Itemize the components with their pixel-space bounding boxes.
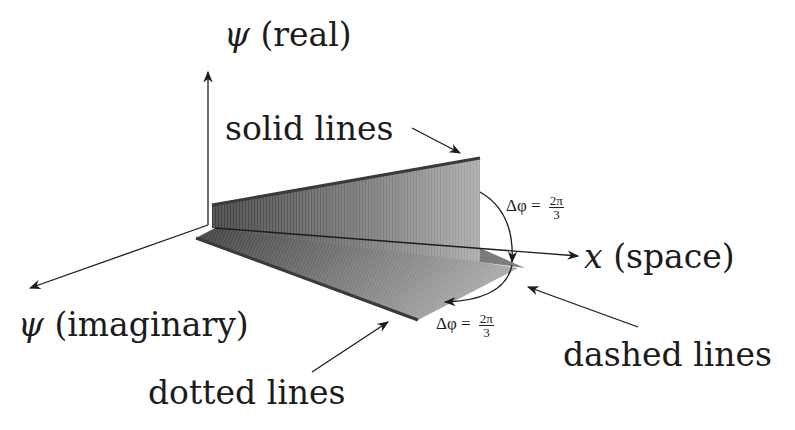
phase-label-lower: Δφ = 2π 3 <box>436 312 494 339</box>
axis-imaginary <box>30 225 208 288</box>
axis-space-text: (space) <box>613 237 735 276</box>
dotted-lines-pointer <box>312 322 388 372</box>
phase-prefix: Δφ = <box>506 196 541 215</box>
axis-label-real: ψ (real) <box>224 18 352 51</box>
annotation-dotted-lines: dotted lines <box>148 376 345 409</box>
dashed-lines-pointer <box>528 287 638 327</box>
annotation-solid-lines: solid lines <box>225 112 393 145</box>
solid-lines-pointer <box>412 128 460 153</box>
psi-symbol: ψ <box>224 15 250 54</box>
phase-label-upper: Δφ = 2π 3 <box>506 194 564 221</box>
axis-imaginary-text: (imaginary) <box>54 305 248 344</box>
axis-real-text: (real) <box>260 15 351 54</box>
x-symbol: x <box>584 237 603 276</box>
fraction-numerator: 2π <box>549 194 564 208</box>
fraction-numerator: 2π <box>479 312 494 326</box>
axis-label-imaginary: ψ (imaginary) <box>18 308 249 341</box>
fraction-denominator: 3 <box>479 326 494 339</box>
phase-fraction: 2π 3 <box>479 312 494 339</box>
annotation-dashed-lines: dashed lines <box>563 338 772 371</box>
fraction-denominator: 3 <box>549 208 564 221</box>
phase-prefix: Δφ = <box>436 314 471 333</box>
psi-symbol: ψ <box>18 305 44 344</box>
phase-fraction: 2π 3 <box>549 194 564 221</box>
wave-diagram: ψ (real) solid lines ψ (imaginary) x (sp… <box>0 0 795 430</box>
axis-label-space: x (space) <box>584 240 735 273</box>
